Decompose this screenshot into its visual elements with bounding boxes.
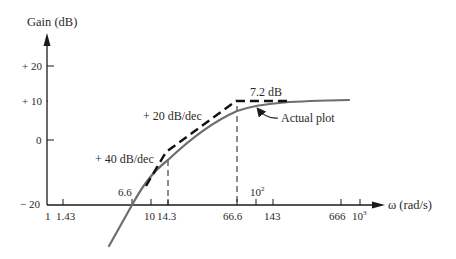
- x-tick-label-666: 666: [329, 210, 346, 222]
- gain-7.2-label: 7.2 dB: [250, 85, 282, 99]
- bode-magnitude-chart: Gain (dB) + 20 + 10 0 − 20 ω (rad/s) 1 1…: [0, 0, 456, 259]
- slope-20-label: + 20 dB/dec: [143, 109, 202, 123]
- x-tick-label-1000: 103: [352, 209, 367, 222]
- x-tick-label-14.3: 14.3: [157, 210, 177, 222]
- x-axis-arrow-icon: [372, 202, 385, 209]
- y-tick-label-20: + 20: [22, 60, 42, 72]
- y-tick-label-neg20: − 20: [20, 198, 40, 210]
- x-axis: ω (rad/s) 1 1.43 10 14.3 66.6 143 666 10…: [45, 185, 432, 222]
- x-tick-label-10: 10: [144, 210, 156, 222]
- x-tick-label-66.6: 66.6: [223, 210, 243, 222]
- x-axis-title: ω (rad/s): [388, 198, 432, 212]
- x-tick-label-1: 1: [45, 210, 51, 222]
- x-tick-label-1.43: 1.43: [56, 210, 76, 222]
- y-axis: Gain (dB) + 20 + 10 0 − 20: [20, 15, 77, 210]
- y-tick-label-10: + 10: [22, 95, 42, 107]
- y-tick-label-0: 0: [36, 134, 42, 146]
- y-axis-title: Gain (dB): [27, 15, 77, 29]
- x-tick-label-143: 143: [264, 210, 281, 222]
- slope-40-label: + 40 dB/dec: [95, 152, 154, 166]
- x-tick-label-100: 102: [250, 185, 265, 198]
- actual-plot-pointer-arrow-icon: [258, 109, 278, 118]
- actual-plot-label: Actual plot: [281, 111, 335, 125]
- x-tick-label-6.6: 6.6: [118, 186, 132, 198]
- y-axis-arrow-icon: [44, 33, 51, 46]
